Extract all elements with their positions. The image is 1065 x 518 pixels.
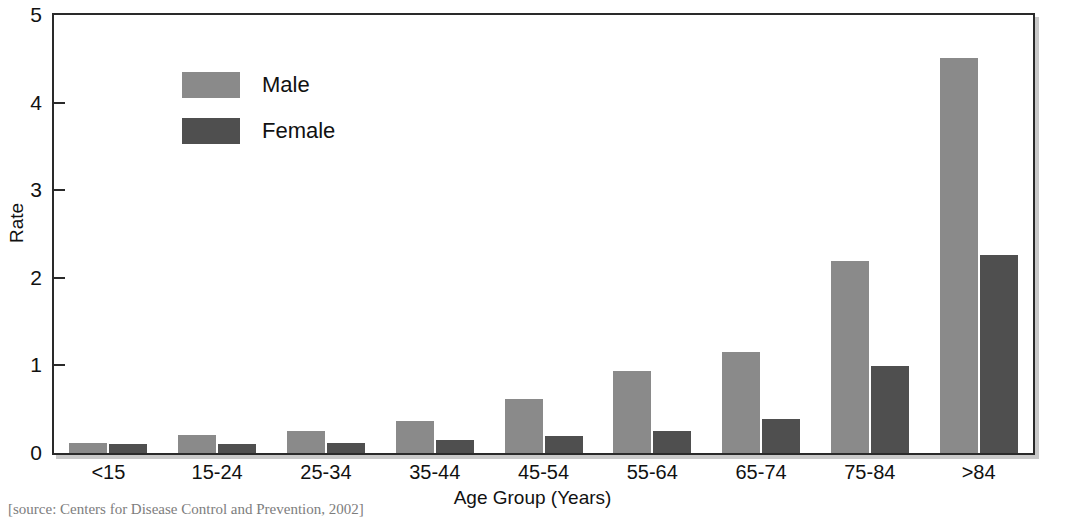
bar-body: [327, 443, 365, 454]
legend-label: Male: [262, 71, 310, 99]
bar-female-65-74: [762, 419, 800, 453]
x-axis-tick-label: 25-34: [266, 462, 386, 482]
y-axis-tick-label: 4: [12, 92, 42, 113]
bar-male->84: [940, 58, 978, 453]
bar-body: [109, 444, 147, 453]
y-axis-tick-label: 5: [12, 4, 42, 25]
y-axis-tick-label: 0: [12, 442, 42, 463]
legend-label: Female: [262, 117, 335, 145]
bar-female-45-54: [545, 436, 583, 453]
bar-body: [762, 419, 800, 453]
bar-body: [980, 255, 1018, 453]
bar-male-15-24: [178, 435, 216, 453]
bar-female->84: [980, 255, 1018, 453]
x-axis-tick-label: 75-84: [810, 462, 930, 482]
bar-body: [436, 440, 474, 453]
x-axis-tick-label: <15: [48, 462, 168, 482]
bar-female-25-34: [327, 443, 365, 454]
legend-swatch-shadow: [185, 121, 243, 147]
legend-swatch-male: [182, 72, 240, 98]
legend-swatch-female: [182, 118, 240, 144]
legend-swatch-shadow: [185, 75, 243, 101]
bar-male-55-64: [613, 371, 651, 453]
bar-body: [178, 435, 216, 453]
x-axis-tick-label: 15-24: [157, 462, 277, 482]
bar-body: [831, 261, 869, 453]
x-axis-tick-label: 65-74: [701, 462, 821, 482]
x-axis-tick-label: 45-54: [484, 462, 604, 482]
bar-male-<15: [69, 443, 107, 453]
bar-body: [69, 443, 107, 453]
bar-body: [545, 436, 583, 453]
bar-male-45-54: [505, 399, 543, 453]
bar-body: [871, 366, 909, 453]
figure-caption: [source: Centers for Disease Control and…: [8, 501, 364, 518]
bar-male-25-34: [287, 431, 325, 453]
bar-body: [722, 352, 760, 453]
bar-body: [505, 399, 543, 453]
bar-male-75-84: [831, 261, 869, 453]
bar-female-75-84: [871, 366, 909, 453]
bar-male-35-44: [396, 421, 434, 453]
bar-body: [940, 58, 978, 453]
bar-female-15-24: [218, 444, 256, 453]
bar-female-35-44: [436, 440, 474, 453]
y-axis-title: Rate: [6, 178, 28, 268]
y-axis-tick-label: 2: [12, 267, 42, 288]
y-axis-tick-label: 1: [12, 354, 42, 375]
x-axis-tick-label: 35-44: [375, 462, 495, 482]
bar-body: [218, 444, 256, 453]
chart-figure: 012345 Rate <1515-2425-3435-4445-5455-64…: [0, 0, 1065, 518]
bar-body: [287, 431, 325, 453]
bar-female-<15: [109, 444, 147, 453]
bar-body: [396, 421, 434, 453]
bar-female-55-64: [653, 431, 691, 453]
bar-body: [653, 431, 691, 453]
x-axis-tick-label: 55-64: [592, 462, 712, 482]
bar-male-65-74: [722, 352, 760, 453]
bar-body: [613, 371, 651, 453]
x-axis-tick-label: >84: [919, 462, 1039, 482]
